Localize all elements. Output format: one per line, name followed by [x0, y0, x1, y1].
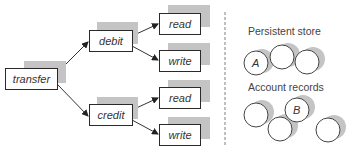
account-records-circles: B [244, 95, 346, 142]
node-credit-read: read [159, 87, 201, 109]
circle-label-b: B [293, 104, 300, 116]
circle-label-a: A [251, 57, 259, 69]
persistent-store-label: Persistent store [248, 25, 321, 37]
node-credit-write-label: write [168, 129, 191, 141]
persistent-store-circles: A [244, 43, 325, 75]
arrow-credit-write [132, 120, 158, 134]
node-transfer-label: transfer [13, 73, 50, 85]
node-transfer: transfer [5, 68, 58, 90]
arrow-transfer-credit [58, 85, 88, 116]
node-debit-write-label: write [168, 55, 191, 67]
node-credit-write: write [159, 124, 201, 146]
node-credit-label: credit [98, 109, 125, 121]
diagram-canvas: A B transfer debit credit [0, 0, 359, 157]
node-debit: debit [89, 30, 133, 52]
node-debit-label: debit [99, 35, 123, 47]
node-debit-read-label: read [169, 18, 191, 30]
node-debit-read: read [159, 13, 201, 35]
account-records-label: Account records [248, 81, 324, 93]
arrow-debit-write [132, 46, 158, 60]
node-credit-read-label: read [169, 92, 191, 104]
node-credit: credit [89, 104, 133, 126]
node-debit-write: write [159, 50, 201, 72]
